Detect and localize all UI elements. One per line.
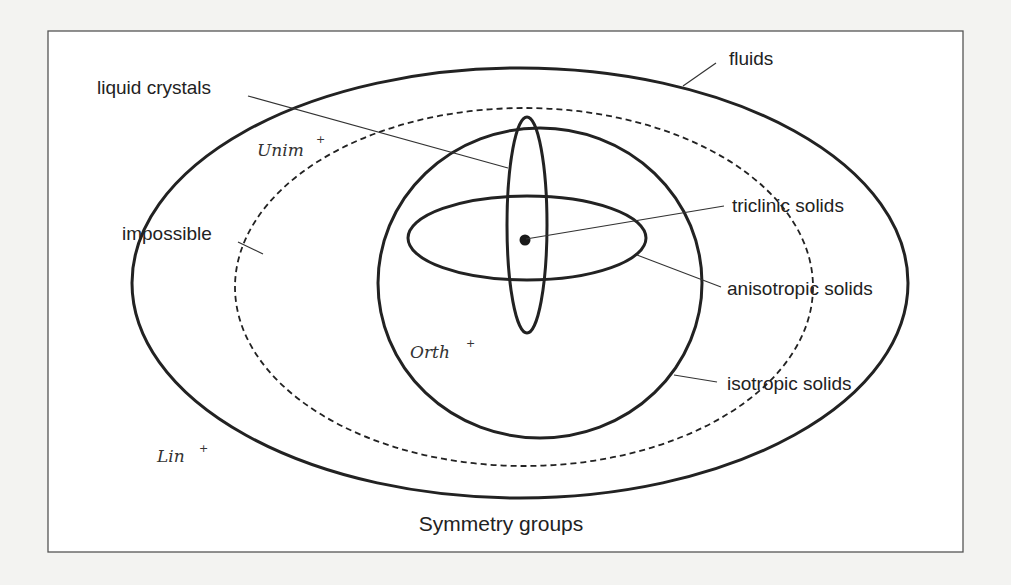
liquid-crystals-label: liquid crystals bbox=[97, 77, 211, 98]
anisotropic-solids-label: anisotropic solids bbox=[727, 278, 873, 299]
lin-group-sup: + bbox=[199, 442, 208, 455]
symmetry-groups-diagram: liquid crystals fluids impossible tricli… bbox=[0, 0, 1011, 585]
lin-group-label: Lin bbox=[156, 446, 185, 466]
diagram-title: Symmetry groups bbox=[419, 512, 584, 535]
impossible-label: impossible bbox=[122, 223, 212, 244]
orth-group-sup: + bbox=[466, 337, 475, 350]
isotropic-solids-label: isotropic solids bbox=[727, 373, 852, 394]
fluids-label: fluids bbox=[729, 48, 773, 69]
triclinic-solids-label: triclinic solids bbox=[732, 195, 844, 216]
unim-group-label: Unim bbox=[257, 140, 304, 160]
triclinic-solids-point bbox=[520, 235, 531, 246]
unim-group-sup: + bbox=[316, 133, 325, 146]
orth-group-label: Orth bbox=[410, 342, 450, 362]
